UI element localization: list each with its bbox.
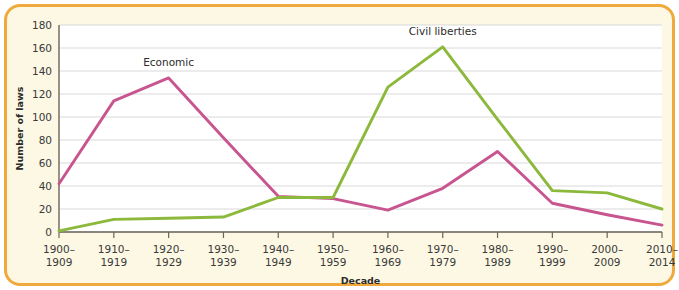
x-tick-label-line1: 1990–	[536, 243, 568, 255]
x-axis-title: Decade	[341, 275, 381, 286]
x-tick-label-line2: 1949	[265, 256, 292, 268]
x-tick-label-line2: 1909	[46, 256, 73, 268]
x-tick-label-line2: 1959	[320, 256, 347, 268]
x-tick-label-line1: 1950–	[317, 243, 349, 255]
y-tick-label: 100	[32, 111, 52, 123]
x-tick-label-line1: 1970–	[427, 243, 459, 255]
x-tick-label-line1: 1910–	[98, 243, 130, 255]
x-tick-label-line2: 1969	[375, 256, 402, 268]
x-tick-label-line2: 1939	[210, 256, 237, 268]
x-tick-label-line1: 1900–	[43, 243, 75, 255]
chart-plot-area: 0204060801001201401601801900–19091910–19…	[7, 7, 678, 289]
y-tick-label: 120	[32, 88, 52, 100]
x-tick-label-line1: 1980–	[482, 243, 514, 255]
line-chart-svg: 0204060801001201401601801900–19091910–19…	[7, 7, 678, 289]
series-label-economic: Economic	[143, 56, 194, 68]
x-tick-label-line1: 1930–	[207, 243, 239, 255]
y-axis-title: Number of laws	[14, 86, 25, 170]
y-tick-label: 180	[32, 19, 52, 31]
y-tick-label: 20	[39, 203, 52, 215]
x-tick-label-line1: 2000–	[591, 243, 623, 255]
x-tick-label-line2: 1999	[539, 256, 566, 268]
x-tick-label-line2: 1919	[100, 256, 127, 268]
y-tick-label: 0	[45, 226, 52, 238]
x-tick-label-line1: 1940–	[262, 243, 294, 255]
chart-figure: 0204060801001201401601801900–19091910–19…	[4, 4, 675, 286]
x-tick-label-line2: 2014	[649, 256, 676, 268]
y-tick-label: 40	[39, 180, 52, 192]
x-tick-label-line1: 1960–	[372, 243, 404, 255]
y-tick-label: 60	[39, 157, 52, 169]
series-label-civil-liberties: Civil liberties	[409, 25, 477, 37]
x-tick-label-line2: 1979	[429, 256, 456, 268]
x-tick-label-line1: 2010–	[646, 243, 678, 255]
x-tick-label-line1: 1920–	[153, 243, 185, 255]
x-tick-label-line2: 1989	[484, 256, 511, 268]
y-tick-label: 140	[32, 65, 52, 77]
x-tick-label-line2: 1929	[155, 256, 182, 268]
y-tick-label: 160	[32, 42, 52, 54]
y-tick-label: 80	[39, 134, 52, 146]
x-tick-label-line2: 2009	[594, 256, 621, 268]
